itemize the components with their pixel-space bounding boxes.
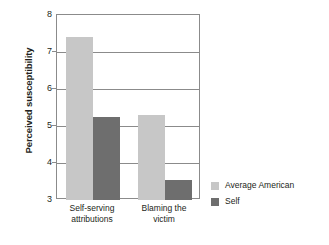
legend-item-self[interactable]: Self: [211, 196, 327, 207]
y-tick-label-8: 8: [38, 10, 52, 19]
x-category-label-1: Self-servingattributions: [56, 203, 128, 224]
x-category-label-line: attributions: [56, 214, 128, 225]
y-tick-label-6: 6: [38, 84, 52, 93]
x-category-label-line: Self-serving: [56, 203, 128, 214]
y-axis-title: Perceived susceptibility: [23, 26, 34, 176]
y-tick-label-7: 7: [38, 47, 52, 56]
x-category-label-line: victim: [128, 214, 200, 225]
legend-swatch-icon: [211, 182, 219, 190]
y-tick-label-4: 4: [38, 158, 52, 167]
bar-self-group-1: [93, 117, 120, 200]
y-tick-label-3: 3: [38, 195, 52, 204]
bar-average-american-group-1: [66, 37, 93, 200]
plot-area: [56, 14, 200, 199]
bar-chart-figure: Perceived susceptibility 876543 Self-ser…: [0, 0, 329, 245]
bar-self-group-2: [165, 180, 192, 200]
legend-label: Self: [225, 197, 240, 206]
y-axis-tick-labels: 876543: [36, 14, 52, 199]
x-category-label-line: Blaming the: [128, 203, 200, 214]
x-axis-category-labels: Self-servingattributionsBlaming thevicti…: [56, 203, 200, 237]
y-tick-label-5: 5: [38, 121, 52, 130]
legend-label: Average American: [225, 181, 294, 190]
legend-swatch-icon: [211, 198, 219, 206]
bar-average-american-group-2: [138, 115, 165, 200]
x-category-label-2: Blaming thevictim: [128, 203, 200, 224]
legend-item-average-american[interactable]: Average American: [211, 180, 327, 191]
chart-legend: Average AmericanSelf: [211, 180, 327, 212]
